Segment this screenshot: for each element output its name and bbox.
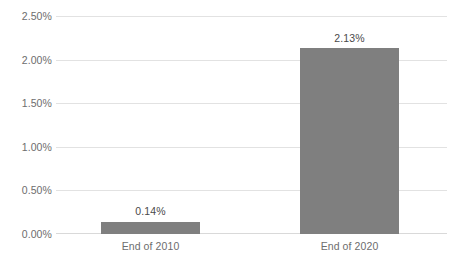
x-axis: End of 2010 End of 2020 — [56, 240, 447, 258]
y-axis: 2.50% 2.00% 1.50% 1.00% 0.50% 0.00% — [0, 16, 52, 234]
bar-end-of-2020[interactable] — [300, 48, 399, 234]
bar-value-label: 2.13% — [300, 32, 399, 44]
y-axis-tick-label: 0.50% — [4, 184, 52, 196]
bar-end-of-2010[interactable] — [101, 222, 200, 234]
plot-area: 0.14% 2.13% — [56, 16, 447, 234]
gridline — [56, 16, 447, 17]
y-axis-tick-label: 1.00% — [4, 141, 52, 153]
y-axis-tick-label: 2.00% — [4, 54, 52, 66]
x-axis-category-label: End of 2020 — [300, 240, 399, 252]
y-axis-tick-label: 2.50% — [4, 10, 52, 22]
y-axis-tick-label: 1.50% — [4, 97, 52, 109]
x-axis-category-label: End of 2010 — [101, 240, 200, 252]
bar-chart: 2.50% 2.00% 1.50% 1.00% 0.50% 0.00% 0.14… — [0, 0, 456, 263]
chart-title — [26, 0, 346, 3]
bar-value-label: 0.14% — [101, 205, 200, 217]
y-axis-tick-label: 0.00% — [4, 228, 52, 240]
